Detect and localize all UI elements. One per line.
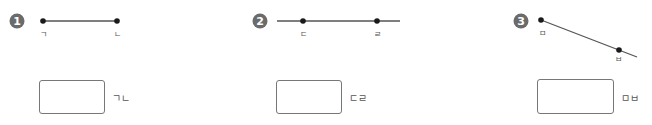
badge-number: 1 (13, 15, 21, 28)
point-dot-icon (40, 18, 46, 24)
answer-box-2[interactable] (276, 80, 342, 114)
point-dot-icon (538, 17, 544, 23)
number-badge-3: 3 (514, 14, 529, 29)
number-badge-2: 2 (253, 14, 268, 29)
badge-number: 3 (517, 15, 525, 28)
answer-box-3[interactable] (537, 79, 614, 114)
point-label: ㄴ (114, 30, 121, 39)
point-label: ㄷ (300, 30, 307, 39)
point-label: ㄹ (374, 30, 381, 39)
answer-box-1[interactable] (39, 80, 105, 114)
point-dot-icon (300, 18, 306, 24)
number-badge-1: 1 (10, 14, 25, 29)
point-dot-icon (616, 47, 622, 53)
answer-box-label-3: ㅁㅂ (621, 93, 639, 105)
point-dot-icon (114, 18, 120, 24)
ray-line (541, 20, 637, 57)
point-label: ㄱ (40, 30, 47, 39)
answer-box-label-1: ㄱㄴ (112, 93, 130, 105)
figure-2: 2 ㄷ ㄹ (253, 14, 401, 40)
badge-number: 2 (256, 15, 264, 28)
point-dot-icon (374, 18, 380, 24)
answer-box-label-2: ㄷㄹ (349, 93, 367, 105)
figure-3: 3 ㅁ ㅂ (514, 14, 638, 65)
figure-1: 1 ㄱ ㄴ (10, 14, 121, 40)
point-label: ㅂ (615, 55, 622, 64)
point-label: ㅁ (539, 29, 546, 38)
